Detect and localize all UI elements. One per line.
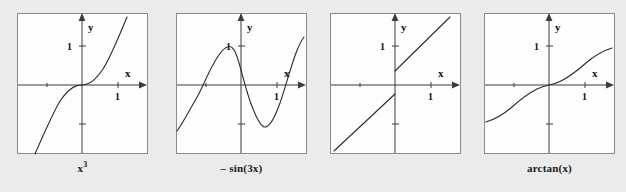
x-axis-label: x bbox=[284, 67, 290, 79]
curve-lower-branch bbox=[334, 94, 395, 151]
x-axis-arrow-icon bbox=[298, 82, 306, 89]
plot-panel-discontinuous-line: x y 1 1 bbox=[330, 13, 461, 154]
y-axis-arrow-icon bbox=[546, 13, 553, 21]
y-axis-arrow-icon bbox=[392, 13, 399, 21]
x-tick-label-1: 1 bbox=[582, 91, 587, 102]
y-tick-label-1: 1 bbox=[226, 41, 231, 52]
panel-caption-arctan-x: arctan(x) bbox=[484, 160, 615, 174]
plot-panel-neg-sin-3x: x y 1 1 bbox=[176, 13, 307, 154]
plot-area: x y 1 1 bbox=[330, 13, 461, 154]
y-axis-label: y bbox=[88, 21, 94, 33]
y-axis-arrow-icon bbox=[238, 13, 245, 21]
plot-area: x y 1 1 bbox=[17, 13, 148, 154]
panel-caption-neg-sin-3x: – sin(3x) bbox=[176, 160, 307, 174]
y-tick-label-1: 1 bbox=[534, 41, 539, 52]
plot-area: x y 1 1 bbox=[176, 13, 307, 154]
x-axis-arrow-icon bbox=[606, 82, 614, 89]
caption-base: – sin(3x) bbox=[221, 162, 263, 174]
function-graphs-figure: x y 1 1 x3 x y 1 1 – sin(3x) bbox=[0, 0, 626, 192]
y-axis-arrow-icon bbox=[79, 13, 86, 21]
caption-exponent: 3 bbox=[83, 160, 87, 169]
panel-caption-x-cubed: x3 bbox=[17, 160, 148, 174]
y-axis-label: y bbox=[555, 21, 561, 33]
plot-area: x y 1 1 bbox=[484, 13, 615, 154]
x-axis-label: x bbox=[592, 67, 598, 79]
plot-panel-arctan-x: x y 1 1 bbox=[484, 13, 615, 154]
y-tick-label-1: 1 bbox=[380, 41, 385, 52]
y-tick-label-1: 1 bbox=[67, 41, 72, 52]
x-axis-arrow-icon bbox=[139, 82, 147, 89]
y-axis-label: y bbox=[401, 21, 407, 33]
plot-panel-x-cubed: x y 1 1 bbox=[17, 13, 148, 154]
x-tick-label-1: 1 bbox=[428, 91, 433, 102]
caption-base: arctan(x) bbox=[527, 162, 572, 174]
y-axis-label: y bbox=[247, 21, 253, 33]
x-tick-label-1: 1 bbox=[115, 91, 120, 102]
x-axis-label: x bbox=[125, 67, 131, 79]
x-axis-label: x bbox=[438, 67, 444, 79]
x-tick-label-1: 1 bbox=[274, 91, 279, 102]
x-axis-arrow-icon bbox=[452, 82, 460, 89]
